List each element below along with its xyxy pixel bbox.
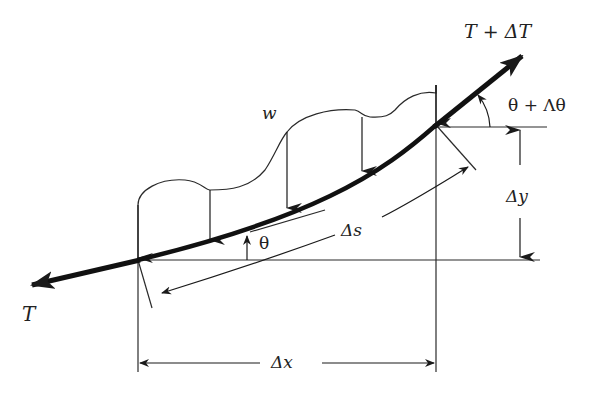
right-normal-tick (436, 125, 476, 170)
angle-theta-label: θ (259, 235, 269, 252)
tension-left-label: T (22, 304, 35, 324)
theta-plus-arc (478, 95, 490, 127)
tension-right-arrow (434, 56, 522, 127)
left-normal-tick (138, 260, 152, 308)
angle-theta-plus-label: θ + Λθ (508, 97, 566, 114)
tension-right-label: T + ΔT (464, 22, 531, 41)
delta-s-arrow-lower (162, 235, 335, 293)
tension-left-arrow (32, 260, 140, 285)
load-label: w (262, 105, 277, 122)
load-arrows (138, 85, 436, 258)
cable-element-diagram: T T + ΔT w θ θ + Λθ Δs Δy Δx (0, 0, 597, 399)
dx-label: Δx (271, 354, 293, 371)
dy-label: Δy (506, 188, 528, 205)
arc-length-label: Δs (341, 222, 362, 239)
delta-s-arrow-upper (382, 167, 468, 217)
